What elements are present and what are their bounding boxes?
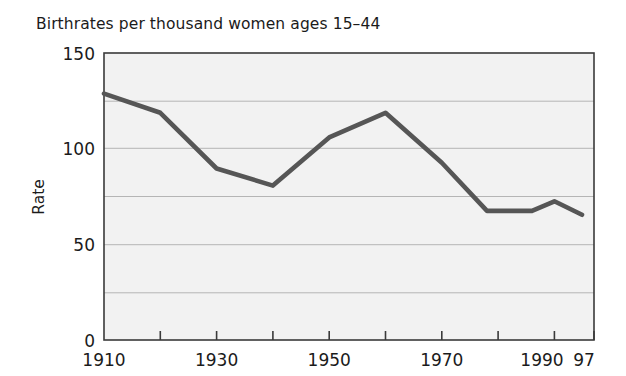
plot-area-container: 150 100 50 0 Rate 1910 1930 1950 1970 19… (0, 0, 626, 376)
yaxis-title: Rate (30, 179, 48, 215)
xtick-label-1950: 1950 (308, 350, 351, 370)
ytick-label-100: 100 (63, 139, 95, 159)
ytick-label-50: 50 (73, 235, 95, 255)
xtick-label-97: 97 (573, 350, 595, 370)
xtick-label-1990: 1990 (520, 350, 563, 370)
xtick-label-1970: 1970 (420, 350, 463, 370)
ytick-label-0: 0 (84, 331, 95, 351)
xtick-label-1910: 1910 (82, 350, 125, 370)
ytick-label-150: 150 (63, 44, 95, 64)
xtick-label-1930: 1930 (195, 350, 238, 370)
line-chart-svg: 150 100 50 0 Rate 1910 1930 1950 1970 19… (0, 0, 626, 376)
birthrate-chart-figure: Birthrates per thousand women ages 15–44 (0, 0, 626, 376)
